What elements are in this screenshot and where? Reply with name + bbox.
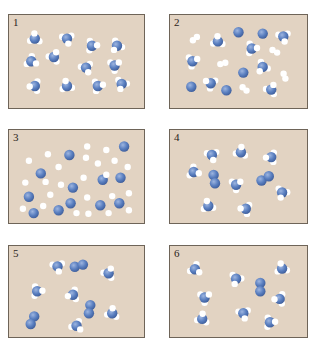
hydrogen-atom	[242, 315, 248, 321]
hydrogen-atom	[111, 158, 117, 164]
hydrogen-atom	[77, 326, 83, 332]
hydrogen-atom	[194, 56, 200, 62]
h2-molecule	[269, 47, 280, 56]
hydrogen-atom	[206, 291, 212, 297]
hydrogen-atom	[27, 83, 33, 89]
nitrogen-atom	[29, 208, 39, 218]
panel-3: 3	[8, 129, 145, 224]
hydrogen-atom	[243, 87, 249, 93]
nh3-molecule	[31, 283, 45, 299]
hydrogen-atom	[281, 38, 287, 44]
n2-molecule	[26, 311, 40, 329]
hydrogen-atom	[196, 170, 202, 176]
hydrogen-atom	[254, 45, 260, 51]
hydrogen-atom	[194, 34, 200, 40]
hydrogen-atom-free	[26, 158, 32, 164]
nh3-molecule	[204, 149, 220, 163]
panel-5-scene	[9, 246, 144, 337]
nh3-molecule	[264, 314, 278, 330]
nitrogen-atom	[264, 171, 274, 181]
hydrogen-atom	[203, 78, 209, 84]
nh3-molecule	[115, 77, 130, 92]
nh3-molecule	[201, 198, 217, 212]
hydrogen-atom	[125, 164, 131, 170]
nh3-molecule	[100, 265, 114, 281]
nh3-molecule	[197, 291, 212, 306]
nitrogen-atom	[84, 308, 94, 318]
hydrogen-atom	[210, 157, 216, 163]
n2-molecule	[84, 300, 96, 319]
nitrogen-atom	[68, 182, 78, 192]
hydrogen-atom	[20, 206, 26, 212]
nh3-molecule	[187, 164, 203, 179]
hydrogen-atom	[47, 192, 53, 198]
hydrogen-atom	[117, 86, 123, 92]
nh3-molecule	[27, 78, 41, 94]
hydrogen-atom	[204, 198, 210, 204]
nitrogen-atom	[95, 200, 105, 210]
nh3-molecule	[24, 53, 40, 67]
hydrogen-atom	[65, 40, 71, 46]
hydrogen-atom-free	[83, 155, 89, 161]
hydrogen-atom	[238, 144, 244, 150]
hydrogen-atom	[31, 30, 37, 36]
nitrogen-atom-free	[64, 150, 74, 160]
panel-2-scene	[170, 15, 307, 108]
hydrogen-atom	[274, 49, 280, 55]
hydrogen-atom	[80, 175, 86, 181]
hydrogen-atom	[126, 190, 132, 196]
hydrogen-atom-free	[80, 175, 86, 181]
nitrogen-atom	[114, 198, 124, 208]
nh3-molecule	[49, 260, 65, 274]
panel-6-scene	[170, 246, 307, 337]
nh3-molecule	[271, 291, 285, 307]
hydrogen-atom	[85, 69, 91, 75]
nh3-molecule	[92, 79, 106, 95]
nh3-molecule	[107, 59, 122, 74]
nitrogen-atom-free	[119, 141, 129, 151]
nitrogen-atom	[221, 85, 231, 95]
hydrogen-atom-free	[20, 206, 26, 212]
nh3-molecule	[86, 38, 100, 54]
hydrogen-atom	[111, 47, 117, 53]
hydrogen-atom-free	[40, 203, 46, 209]
nh3-molecule	[275, 260, 291, 274]
nh3-molecule	[187, 261, 203, 275]
hydrogen-atom	[103, 147, 109, 153]
nitrogen-atom-free	[29, 208, 39, 218]
nitrogen-atom-free	[186, 82, 196, 92]
hydrogen-atom	[109, 305, 115, 311]
hydrogen-atom	[73, 210, 79, 216]
hydrogen-atom	[53, 49, 59, 55]
hydrogen-atom-free	[84, 143, 90, 149]
hydrogen-atom	[278, 260, 284, 266]
hydrogen-atom	[103, 172, 109, 178]
panel-label: 4	[174, 131, 180, 143]
hydrogen-atom-free	[103, 147, 109, 153]
hydrogen-atom-free	[73, 210, 79, 216]
hydrogen-atom-free	[126, 207, 132, 213]
hydrogen-atom	[95, 160, 101, 166]
nh3-molecule	[237, 202, 252, 217]
hydrogen-atom-free	[22, 179, 28, 185]
panel-2: 2	[169, 14, 308, 109]
panel-5: 5	[8, 245, 145, 338]
nitrogen-atom-free	[114, 198, 124, 208]
nh3-molecule	[111, 38, 125, 54]
hydrogen-atom	[214, 33, 220, 39]
nitrogen-atom-free	[221, 85, 231, 95]
hydrogen-atom	[39, 288, 45, 294]
hydrogen-atom	[40, 203, 46, 209]
nitrogen-atom-free	[233, 27, 243, 37]
hydrogen-atom	[94, 42, 100, 48]
hydrogen-atom	[116, 59, 122, 65]
hydrogen-atom	[237, 205, 243, 211]
hydrogen-atom-free	[58, 182, 64, 188]
hydrogen-atom-free	[85, 211, 91, 217]
nitrogen-atom-free	[36, 168, 46, 178]
nh3-molecule	[78, 61, 93, 76]
nh3-molecule	[263, 149, 277, 165]
hydrogen-atom	[282, 75, 288, 81]
nitrogen-atom	[258, 28, 268, 38]
hydrogen-atom	[45, 151, 51, 157]
